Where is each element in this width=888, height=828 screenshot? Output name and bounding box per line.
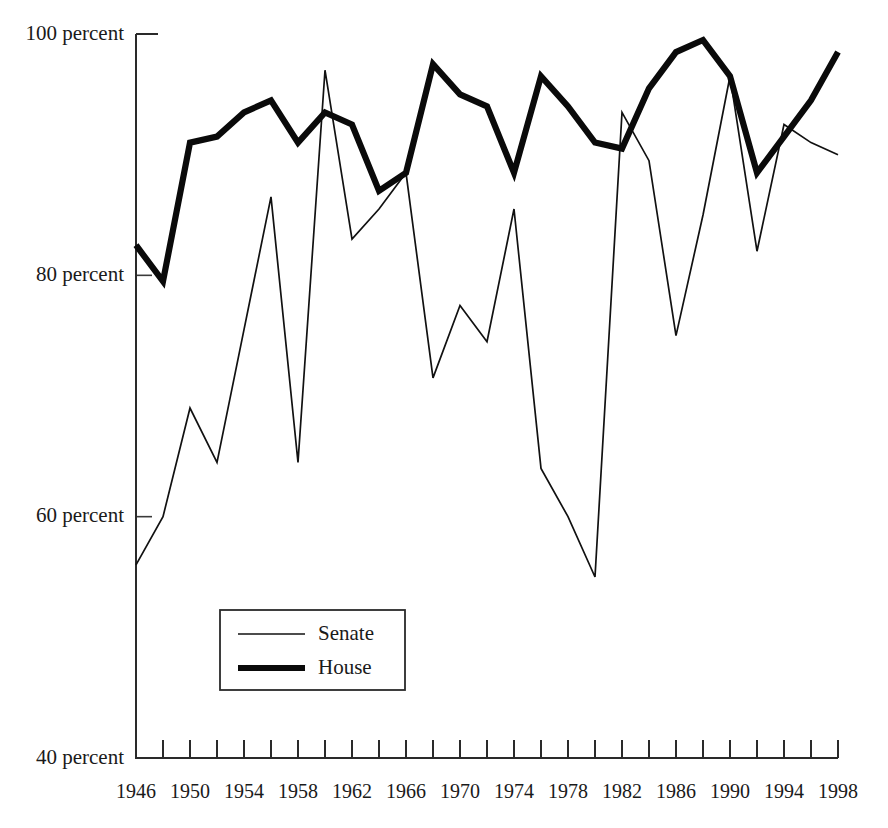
x-axis-labels: 1946195019541958196219661970197419781982… (116, 780, 858, 802)
x-axis-label-1958: 1958 (278, 780, 318, 802)
legend-label-senate: Senate (318, 621, 374, 645)
line-chart: 100 percent80 percent60 percent40 percen… (0, 0, 888, 828)
y-axis-label-60: 60 percent (36, 503, 124, 527)
y-axis-labels: 100 percent80 percent60 percent40 percen… (25, 21, 124, 769)
y-axis-label-100: 100 percent (25, 21, 124, 45)
legend-label-house: House (318, 655, 372, 679)
x-axis-label-1986: 1986 (656, 780, 696, 802)
x-axis-ticks (136, 740, 838, 758)
x-axis-label-1970: 1970 (440, 780, 480, 802)
x-axis-label-1946: 1946 (116, 780, 156, 802)
x-axis-label-1990: 1990 (710, 780, 750, 802)
y-axis-label-80: 80 percent (36, 262, 124, 286)
x-axis-label-1966: 1966 (386, 780, 426, 802)
y-axis-ticks (136, 34, 158, 758)
series-line-house (136, 40, 838, 281)
x-axis-label-1982: 1982 (602, 780, 642, 802)
x-axis-label-1998: 1998 (818, 780, 858, 802)
series-line-senate (136, 70, 838, 577)
x-axis-label-1962: 1962 (332, 780, 372, 802)
legend-border (220, 610, 405, 690)
x-axis-label-1950: 1950 (170, 780, 210, 802)
x-axis-label-1954: 1954 (224, 780, 264, 802)
chart-container: 100 percent80 percent60 percent40 percen… (0, 0, 888, 828)
x-axis-label-1974: 1974 (494, 780, 534, 802)
chart-legend: SenateHouse (220, 610, 405, 690)
x-axis-label-1994: 1994 (764, 780, 804, 802)
x-axis-label-1978: 1978 (548, 780, 588, 802)
y-axis-label-40: 40 percent (36, 745, 124, 769)
